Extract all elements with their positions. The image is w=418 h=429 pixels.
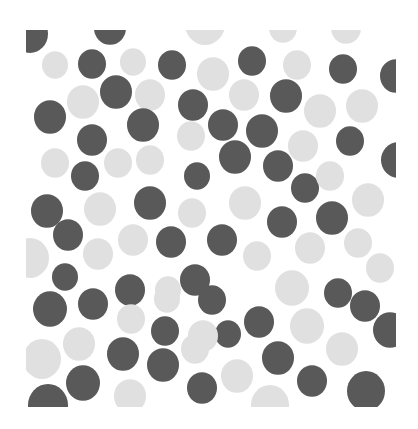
- dark-blob: [78, 49, 106, 78]
- dark-blob: [329, 54, 357, 83]
- light-blob: [275, 270, 309, 306]
- dark-blob: [187, 372, 217, 404]
- light-blob: [118, 224, 148, 256]
- light-blob: [288, 130, 318, 162]
- light-blob: [346, 89, 378, 123]
- dark-blob: [107, 337, 139, 371]
- dark-blob: [336, 126, 364, 155]
- light-blob: [290, 308, 324, 344]
- dark-blob: [215, 320, 241, 347]
- light-blob: [243, 241, 271, 270]
- dark-blob: [262, 341, 294, 375]
- dark-blob: [246, 114, 278, 148]
- light-blob: [136, 145, 164, 174]
- dark-blob: [207, 224, 237, 256]
- dark-blob: [184, 162, 210, 189]
- light-blob: [197, 57, 229, 91]
- dark-blob: [52, 263, 78, 290]
- dark-blob: [244, 306, 274, 338]
- light-blob: [344, 228, 372, 257]
- dark-blob: [158, 50, 186, 79]
- light-blob: [104, 148, 132, 177]
- dark-blob: [219, 140, 251, 174]
- light-blob: [366, 253, 394, 282]
- dark-blob: [151, 316, 179, 345]
- light-blob: [304, 94, 336, 128]
- light-blob: [178, 198, 206, 227]
- light-blob: [283, 50, 311, 79]
- dark-blob: [66, 365, 100, 401]
- light-blob: [117, 304, 145, 333]
- dark-blob: [350, 290, 380, 322]
- light-blob: [120, 48, 146, 75]
- dark-blob: [208, 109, 238, 141]
- light-blob: [229, 186, 261, 220]
- dark-blob: [147, 348, 179, 382]
- dark-blob: [270, 79, 302, 113]
- dark-blob: [31, 194, 63, 228]
- light-blob: [229, 79, 259, 111]
- dark-blob: [34, 100, 66, 134]
- dark-blob: [53, 219, 83, 251]
- dark-blob: [316, 201, 348, 235]
- light-blob: [135, 79, 165, 111]
- light-blob: [67, 85, 99, 119]
- dark-blob: [297, 365, 327, 397]
- dark-blob: [134, 186, 166, 220]
- dark-blob: [156, 226, 186, 258]
- dark-blob: [127, 108, 159, 142]
- light-blob: [316, 161, 344, 190]
- light-blob: [63, 327, 95, 361]
- light-blob: [177, 121, 205, 150]
- light-blob: [221, 359, 253, 393]
- light-blob: [326, 332, 358, 366]
- light-blob: [84, 192, 116, 226]
- dark-blob: [115, 274, 145, 306]
- dark-blob: [100, 75, 132, 109]
- dark-blob: [324, 278, 352, 307]
- light-blob: [295, 232, 325, 264]
- light-blob: [42, 51, 68, 78]
- dark-blob: [198, 285, 226, 314]
- dark-blob: [291, 173, 319, 202]
- light-blob: [352, 183, 384, 217]
- dark-blob: [263, 150, 293, 182]
- dark-blob: [78, 288, 108, 320]
- dark-blob: [77, 124, 107, 156]
- light-blob: [154, 285, 180, 312]
- dark-blob: [71, 161, 99, 190]
- dark-blob: [347, 371, 385, 411]
- dark-blob: [178, 89, 208, 121]
- dark-blob: [33, 291, 67, 327]
- light-blob: [41, 148, 69, 177]
- light-blob: [83, 238, 113, 270]
- dark-blob: [238, 46, 266, 75]
- light-blob: [181, 334, 209, 363]
- blob-pattern-svg: [0, 0, 418, 429]
- light-blob: [23, 339, 61, 379]
- blob-pattern-image: [0, 0, 418, 429]
- dark-blob: [267, 206, 297, 238]
